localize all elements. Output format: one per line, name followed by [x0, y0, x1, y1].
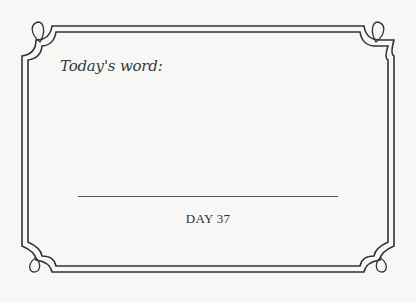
answer-line[interactable] — [78, 196, 338, 197]
word-card: Today's word: DAY 37 — [0, 0, 416, 302]
prompt-label: Today's word: — [60, 57, 163, 75]
day-label: DAY 37 — [0, 211, 416, 227]
ornamental-frame-icon — [0, 0, 416, 302]
